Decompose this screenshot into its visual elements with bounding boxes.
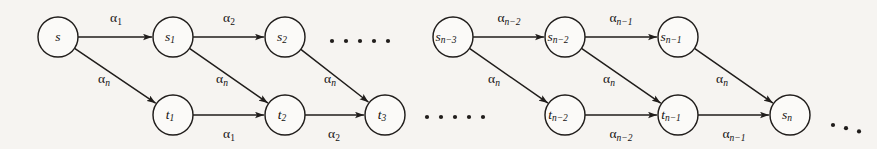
edge-label-e-tn2-tn1: αn−2: [610, 126, 633, 143]
edge-label-e-t2-t3: α2: [328, 126, 340, 143]
edge-label-e-sn3-sn2: αn−2: [498, 10, 521, 27]
edge-label-e-s1-s2: α2: [223, 10, 235, 27]
ellipsis-trailing: [831, 123, 861, 134]
node-label-s: s: [55, 29, 60, 44]
edge-label-e-t1-t2: α1: [223, 126, 235, 143]
ellipsis-dot: [344, 39, 348, 43]
edge-label-e-sn1-sn: αn: [716, 71, 728, 88]
figure-canvas: ss1s2t1t2t3sn−3sn−2sn−1tn−2tn−1sn α1α2αn…: [0, 0, 877, 149]
ellipsis-dot: [453, 115, 457, 119]
node-sn3: sn−3: [433, 17, 473, 57]
node-tn1: tn−1: [658, 95, 698, 135]
ellipsis-bottom-right: [425, 115, 485, 119]
edge-label-e-sn2-tn1: αn: [603, 71, 615, 88]
ellipsis-dot: [857, 129, 861, 133]
edge-s1-to-t2: [190, 49, 268, 103]
node-tn2: tn−2: [545, 95, 585, 135]
ellipsis-dot: [831, 123, 835, 127]
ellipsis-dot: [844, 126, 848, 130]
edge-label-e-s2-t3: αn: [324, 71, 336, 88]
edge-label-e-tn1-sn: αn−1: [723, 126, 746, 143]
node-sn1: sn−1: [658, 17, 698, 57]
ellipsis-dot: [481, 115, 485, 119]
edge-s2-to-t3: [301, 50, 368, 102]
node-sn: sn: [770, 95, 810, 135]
ellipsis-dot: [372, 39, 376, 43]
edge-s-to-t1: [75, 49, 155, 103]
edge-sn3-to-tn2: [470, 49, 548, 103]
ellipsis-dot: [358, 39, 362, 43]
node-s2: s2: [265, 17, 305, 57]
node-sn2: sn−2: [545, 17, 585, 57]
edge-sn1-to-sn: [695, 49, 773, 103]
ellipsis-dot: [467, 115, 471, 119]
node-t2: t2: [265, 95, 305, 135]
node-s: s: [38, 17, 78, 57]
ellipsis-top-left: [330, 39, 390, 43]
ellipsis-dot: [330, 39, 334, 43]
nodes-layer: ss1s2t1t2t3sn−3sn−2sn−1tn−2tn−1sn: [38, 17, 810, 135]
node-s1: s1: [153, 17, 193, 57]
node-t3: t3: [365, 95, 405, 135]
edge-label-e-sn3-tn2: αn: [488, 71, 500, 88]
edge-label-e-s-t1: αn: [98, 71, 110, 88]
edge-labels-layer: α1α2αnαnαnα1α2αn−2αn−1αnαnαnαn−2αn−1: [98, 10, 745, 143]
edge-label-e-s-s1: α1: [110, 10, 122, 27]
graph-diagram-svg: ss1s2t1t2t3sn−3sn−2sn−1tn−2tn−1sn α1α2αn…: [0, 0, 877, 149]
ellipsis-dot: [439, 115, 443, 119]
edge-sn2-to-tn1: [582, 49, 660, 103]
ellipsis-dot: [386, 39, 390, 43]
ellipsis-dot: [425, 115, 429, 119]
edge-label-e-sn2-sn1: αn−1: [610, 10, 633, 27]
node-t1: t1: [153, 95, 193, 135]
